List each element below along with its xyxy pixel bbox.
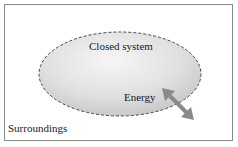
- surroundings-label: Surroundings: [8, 122, 67, 134]
- closed-system-label: Closed system: [89, 40, 153, 52]
- energy-label: Energy: [124, 91, 156, 103]
